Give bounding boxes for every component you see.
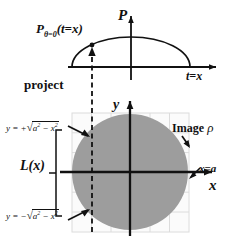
lower-boundary-radicand: a2 − x2 — [32, 209, 59, 221]
upper-boundary-sqrt: √a2 − x2 — [27, 121, 59, 133]
upper-boundary-label: y = +√a2 − x2 — [6, 121, 59, 133]
projection-figure: Pθ=0(t=x) P t=x project y x x=a Image ρ … — [0, 0, 243, 246]
upper-boundary-lhs: y = + — [6, 123, 27, 133]
project-label: project — [24, 78, 63, 91]
curve-point-label: Pθ=0(t=x) — [36, 22, 83, 39]
object-label-symbol: ρ — [204, 120, 214, 135]
curve-point-label-subscript: θ=0 — [44, 30, 57, 39]
top-plot-y-axis-label: P — [118, 8, 127, 23]
lower-boundary-sqrt: √a2 − x2 — [27, 209, 59, 221]
curve-point-label-argument: (t=x) — [57, 21, 83, 36]
radius-label: x=a — [199, 163, 216, 174]
upper-boundary-radicand: a2 − x2 — [32, 121, 59, 133]
object-label-prefix: Image — [172, 121, 204, 135]
lower-boundary-lhs: y = − — [6, 211, 27, 221]
curve-point-marker — [90, 43, 95, 48]
top-plot-x-axis-label: t=x — [186, 70, 202, 82]
bottom-plot-x-axis-label: x — [209, 178, 217, 193]
chord-length-label: L(x) — [20, 159, 45, 173]
curve-point-label-base: P — [36, 21, 44, 36]
bottom-plot-y-axis-label: y — [113, 98, 119, 112]
object-label: Image ρ — [172, 121, 214, 134]
lower-boundary-label: y = −√a2 − x2 — [6, 209, 59, 221]
